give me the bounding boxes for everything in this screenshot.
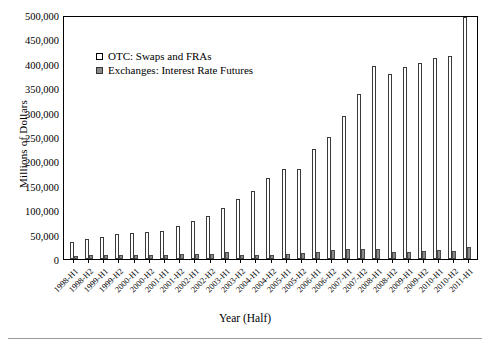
x-tick-mark xyxy=(377,260,378,263)
y-tick-label: 400,000 xyxy=(0,59,63,70)
x-tick-mark xyxy=(88,260,89,263)
x-tick-mark xyxy=(134,260,135,263)
bar-exchanges xyxy=(149,255,153,259)
x-tick-mark xyxy=(392,260,393,263)
bar-exchanges xyxy=(119,255,123,259)
x-tick-mark xyxy=(118,260,119,263)
bar-group xyxy=(354,17,369,259)
bar-exchanges xyxy=(316,252,320,259)
bar-group xyxy=(66,17,81,259)
bar-group xyxy=(81,17,96,259)
y-tick-label: 350,000 xyxy=(0,84,63,95)
bar-otc xyxy=(433,58,437,259)
x-tick-mark xyxy=(194,260,195,263)
bar-exchanges xyxy=(134,255,138,259)
x-tick-mark xyxy=(179,260,180,263)
bar-group xyxy=(460,17,475,259)
bar-exchanges xyxy=(437,250,441,259)
x-tick-mark xyxy=(286,260,287,263)
bar-otc xyxy=(297,169,301,259)
bar-exchanges xyxy=(361,249,365,259)
bar-exchanges xyxy=(255,255,259,259)
y-tick-label: 100,000 xyxy=(0,206,63,217)
x-tick-mark xyxy=(316,260,317,263)
x-tick-mark xyxy=(408,260,409,263)
y-tick-label: 300,000 xyxy=(0,108,63,119)
bar-otc xyxy=(327,137,331,259)
x-tick-mark xyxy=(331,260,332,263)
bar-exchanges xyxy=(286,254,290,259)
legend-label-otc: OTC: Swaps and FRAs xyxy=(108,49,212,63)
x-tick-mark xyxy=(468,260,469,263)
bar-exchanges xyxy=(104,255,108,259)
bar-group xyxy=(263,17,278,259)
chart-figure: Millions of Dollars 050,000100,000150,00… xyxy=(0,0,490,350)
y-tick-label: 50,000 xyxy=(0,230,63,241)
bar-exchanges xyxy=(422,251,426,259)
bar-otc xyxy=(388,74,392,259)
bar-exchanges xyxy=(164,255,168,259)
legend-item-otc: OTC: Swaps and FRAs xyxy=(96,49,253,63)
x-tick-mark xyxy=(362,260,363,263)
x-tick-mark xyxy=(73,260,74,263)
bar-exchanges xyxy=(392,252,396,259)
bar-exchanges xyxy=(270,255,274,259)
bar-exchanges xyxy=(180,254,184,259)
x-tick-mark xyxy=(347,260,348,263)
bar-otc xyxy=(418,63,422,259)
x-tick-mark xyxy=(103,260,104,263)
bar-exchanges xyxy=(301,253,305,259)
bar-exchanges xyxy=(452,251,456,259)
bar-otc xyxy=(448,56,452,259)
bar-exchanges xyxy=(195,254,199,259)
chart-legend: OTC: Swaps and FRAs Exchanges: Interest … xyxy=(96,49,253,77)
y-tick-label: 0 xyxy=(0,255,63,266)
bar-exchanges xyxy=(74,256,78,259)
x-tick-mark xyxy=(453,260,454,263)
bar-exchanges xyxy=(376,249,380,259)
legend-label-exchanges: Exchanges: Interest Rate Futures xyxy=(108,63,253,77)
bar-otc xyxy=(251,191,255,259)
bar-otc xyxy=(372,66,376,259)
y-tick-label: 150,000 xyxy=(0,181,63,192)
x-tick-mark xyxy=(423,260,424,263)
bar-otc xyxy=(236,199,240,259)
bar-group xyxy=(278,17,293,259)
bar-otc xyxy=(282,169,286,259)
bar-exchanges xyxy=(89,255,93,259)
bar-group xyxy=(308,17,323,259)
x-tick-mark xyxy=(438,260,439,263)
bar-group xyxy=(445,17,460,259)
x-axis-title: Year (Half) xyxy=(0,312,490,324)
bar-otc xyxy=(206,216,210,259)
bar-group xyxy=(293,17,308,259)
legend-swatch-otc-icon xyxy=(96,53,103,60)
bar-group xyxy=(339,17,354,259)
bar-group xyxy=(414,17,429,259)
footer-divider xyxy=(8,338,482,339)
y-tick-label: 450,000 xyxy=(0,35,63,46)
x-tick-mark xyxy=(225,260,226,263)
x-tick-mark xyxy=(255,260,256,263)
bar-exchanges xyxy=(407,252,411,259)
x-tick-mark xyxy=(301,260,302,263)
bar-exchanges xyxy=(331,250,335,259)
bar-group xyxy=(323,17,338,259)
bar-exchanges xyxy=(240,255,244,259)
bar-exchanges xyxy=(346,249,350,259)
x-tick-mark xyxy=(271,260,272,263)
y-tick-label: 500,000 xyxy=(0,11,63,22)
bar-otc xyxy=(357,94,361,259)
legend-item-exchanges: Exchanges: Interest Rate Futures xyxy=(96,63,253,77)
bar-group xyxy=(399,17,414,259)
y-tick-label: 200,000 xyxy=(0,157,63,168)
x-tick-mark xyxy=(240,260,241,263)
bar-otc xyxy=(342,116,346,259)
bar-exchanges xyxy=(210,254,214,259)
x-tick-mark xyxy=(164,260,165,263)
bar-exchanges xyxy=(225,252,229,259)
bar-group xyxy=(384,17,399,259)
bar-otc xyxy=(463,17,467,259)
bar-group xyxy=(429,17,444,259)
bar-exchanges xyxy=(467,247,471,259)
